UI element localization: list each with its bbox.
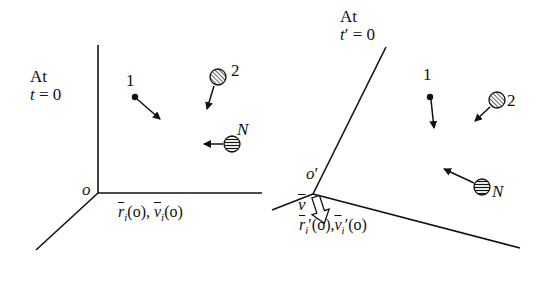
left-y-axis xyxy=(36,193,98,250)
r-argument: (o), xyxy=(312,216,335,233)
right-origin-label: o′ xyxy=(306,165,318,183)
origin-o: o xyxy=(306,164,315,183)
right-particle-N xyxy=(444,169,490,195)
right-position-velocity-label: ri′(o),vi′(o) xyxy=(299,216,367,235)
reference-frames-diagram: At t = 0 1 2 N o ri(o), vi(o) At t′ = 0 … xyxy=(0,0,543,289)
right-particle-2-label: 2 xyxy=(507,92,516,110)
right-title: At t′ = 0 xyxy=(340,8,375,44)
particle-N-velocity-arrow xyxy=(444,169,474,183)
left-particle-2-label: 2 xyxy=(231,62,240,80)
particle-1-velocity-arrow xyxy=(431,100,434,128)
right-title-at: At xyxy=(340,8,375,26)
particle-2-disk xyxy=(210,69,226,85)
time-eq: = 0 xyxy=(35,85,62,104)
left-title: At t = 0 xyxy=(30,68,61,104)
particle-2-velocity-arrow xyxy=(207,86,214,109)
left-particle-1 xyxy=(132,94,160,119)
left-position-velocity-label: ri(o), vi(o) xyxy=(118,203,183,222)
particle-N-disk xyxy=(474,179,490,195)
right-particle-2 xyxy=(475,92,505,121)
left-origin-label: o xyxy=(82,181,91,199)
origin-prime: ′ xyxy=(315,164,319,183)
left-particle-2 xyxy=(207,69,226,109)
left-title-time: t = 0 xyxy=(30,86,61,104)
left-particle-N xyxy=(204,136,240,152)
v-argument: (o) xyxy=(348,216,367,233)
v-subscript: i xyxy=(161,211,164,223)
left-particle-N-label: N xyxy=(237,121,248,139)
particle-2-disk xyxy=(489,92,505,108)
left-particle-1-label: 1 xyxy=(126,72,135,90)
right-particle-N-label: N xyxy=(492,183,503,201)
right-title-time: t′ = 0 xyxy=(340,26,375,44)
diagram-canvas xyxy=(0,0,543,289)
v-argument: (o) xyxy=(164,203,183,220)
time-eq: = 0 xyxy=(348,25,375,44)
particle-1-dot xyxy=(427,94,433,100)
frame-velocity-label: v xyxy=(298,196,306,214)
particle-2-velocity-arrow xyxy=(475,107,490,121)
right-z-axis xyxy=(313,47,386,194)
v-vector: v xyxy=(154,203,161,220)
right-y-axis xyxy=(272,194,313,210)
v-vector: v xyxy=(334,216,341,233)
r-argument: (o), xyxy=(127,203,154,220)
r-subscript: i xyxy=(305,224,308,236)
right-particle-1-label: 1 xyxy=(423,66,432,84)
particle-1-velocity-arrow xyxy=(137,99,160,119)
right-particle-1 xyxy=(427,94,434,128)
left-title-at: At xyxy=(30,68,61,86)
v-subscript: i xyxy=(342,224,345,236)
r-subscript: i xyxy=(124,211,127,223)
